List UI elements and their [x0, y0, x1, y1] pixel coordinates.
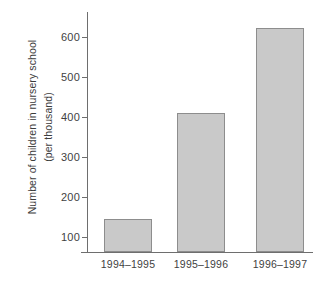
y-tick-mark [82, 77, 88, 78]
bar-1994-1995 [104, 219, 152, 252]
bar-1996-1997 [256, 28, 304, 252]
y-tick-label: 200 [61, 191, 80, 203]
y-tick-mark [82, 197, 88, 198]
x-axis-label-1995-1996: 1995–1996 [174, 258, 228, 270]
y-tick-label: 400 [61, 111, 80, 123]
y-tick-mark [82, 237, 88, 238]
y-tick-label: 600 [61, 31, 80, 43]
y-tick-mark [82, 37, 88, 38]
y-axis-line [87, 12, 88, 252]
y-axis-title-line-2: (per thousand) [42, 92, 54, 162]
y-axis-title-line-1: Number of children in nursery school [26, 40, 38, 215]
x-axis-label-1996-1997: 1996–1997 [253, 258, 307, 270]
bar-1995-1996 [177, 113, 225, 252]
y-tick-mark [82, 117, 88, 118]
plot-area: 100 200 300 400 500 600 [87, 12, 319, 252]
y-tick-mark [82, 157, 88, 158]
y-tick-label: 500 [61, 71, 80, 83]
bar-chart: Number of children in nursery school (pe… [0, 0, 329, 287]
y-axis-title: Number of children in nursery school (pe… [14, 2, 66, 252]
y-tick-label: 100 [61, 231, 80, 243]
x-axis-line [81, 252, 313, 253]
x-axis-label-1994-1995: 1994–1995 [101, 258, 155, 270]
y-tick-label: 300 [61, 151, 80, 163]
